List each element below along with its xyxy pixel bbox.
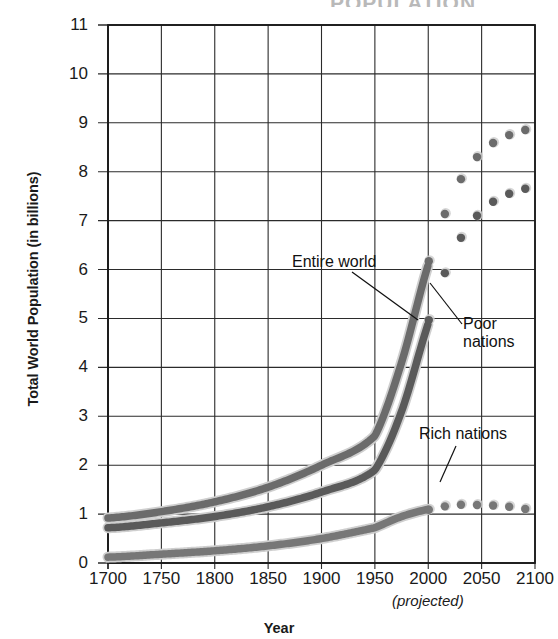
y-tick-label: 4 bbox=[48, 358, 88, 375]
x-axis-title: Year bbox=[0, 620, 558, 636]
annotation-rich-nations: Rich nations bbox=[419, 425, 507, 443]
x-tick-label: 1900 bbox=[292, 570, 352, 587]
y-tick-label: 7 bbox=[48, 212, 88, 229]
leader-line-entire-world bbox=[352, 272, 418, 320]
population-chart-figure: POPULATION Total World Population (in bi… bbox=[0, 0, 558, 639]
x-tick-label: 2100 bbox=[505, 570, 558, 587]
y-tick-label: 2 bbox=[48, 456, 88, 473]
y-tick-label: 5 bbox=[48, 309, 88, 326]
leader-line-poor-nations bbox=[430, 283, 462, 324]
annotation-entire-world: Entire world bbox=[292, 253, 376, 271]
y-tick-label: 9 bbox=[48, 114, 88, 131]
y-tick-label: 6 bbox=[48, 261, 88, 278]
cropped-title-remnant: POPULATION bbox=[330, 0, 555, 7]
x-tick-label: 1800 bbox=[185, 570, 245, 587]
y-tick-label: 11 bbox=[48, 16, 88, 33]
x-tick-label: 2000 bbox=[398, 570, 458, 587]
x-tick-label: 1750 bbox=[131, 570, 191, 587]
x-tick-label: 1850 bbox=[238, 570, 298, 587]
x-tick-label: 2050 bbox=[452, 570, 512, 587]
y-tick-label: 8 bbox=[48, 163, 88, 180]
gridlines bbox=[98, 25, 535, 569]
y-tick-label: 3 bbox=[48, 407, 88, 424]
leader-line-rich-nations bbox=[440, 446, 456, 482]
x-tick-label: 1950 bbox=[345, 570, 405, 587]
y-tick-label: 0 bbox=[48, 554, 88, 571]
y-tick-label: 1 bbox=[48, 505, 88, 522]
projected-note: (projected) bbox=[392, 592, 464, 609]
y-axis-title: Total World Population (in billions) bbox=[25, 89, 41, 489]
y-tick-label: 10 bbox=[48, 65, 88, 82]
x-tick-label: 1700 bbox=[78, 570, 138, 587]
annotation-poor-nations: Poor nations bbox=[463, 315, 515, 351]
